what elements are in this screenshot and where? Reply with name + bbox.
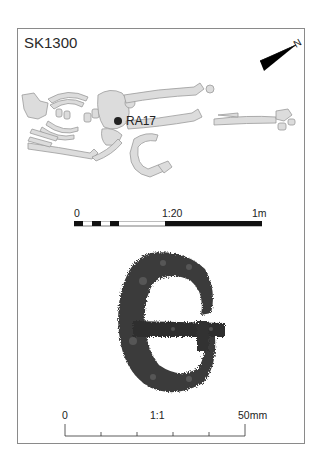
plan-scale-bar: 0 1:20 1m: [74, 207, 262, 233]
buckle-photograph: [93, 241, 233, 401]
object-scale-end: 50mm: [238, 409, 267, 421]
figure-frame: SK1300 N: [17, 28, 305, 444]
object-scale-ratio: 1:1: [150, 409, 165, 421]
skeleton-id-label: SK1300: [24, 34, 77, 51]
plan-scale-ratio: 1:20: [162, 207, 182, 219]
skeleton-plan-drawing: RA17: [18, 81, 304, 201]
plan-scale-graduation: [74, 221, 262, 227]
object-scale-start: 0: [62, 409, 68, 421]
plan-scale-end: 1m: [252, 207, 267, 219]
object-scale-bar: 0 1:1 50mm: [62, 409, 262, 441]
find-label: RA17: [126, 114, 156, 128]
north-arrow-icon: N: [254, 35, 304, 77]
object-scale-graduation: [64, 422, 248, 438]
north-label: N: [291, 37, 303, 50]
plan-scale-start: 0: [74, 207, 80, 219]
find-marker-icon: [114, 117, 122, 125]
